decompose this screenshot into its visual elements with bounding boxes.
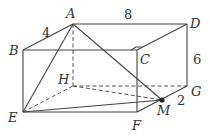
dimension-AB: 4	[42, 25, 50, 40]
edge-CD	[137, 24, 187, 50]
label-B: B	[8, 43, 19, 58]
point-M	[159, 97, 164, 102]
dimension-MG: 2	[177, 93, 185, 108]
label-E: E	[7, 110, 18, 125]
label-M: M	[156, 103, 171, 118]
label-D: D	[189, 16, 201, 31]
diagram-canvas: A B C D E F G H M 4 8 6 2	[0, 0, 210, 136]
label-C: C	[140, 52, 150, 67]
label-F: F	[131, 118, 142, 133]
label-G: G	[191, 84, 201, 99]
prism-diagram: A B C D E F G H M 4 8 6 2	[0, 0, 210, 136]
dimension-AD: 8	[124, 7, 132, 22]
label-A: A	[65, 6, 75, 21]
label-H: H	[57, 72, 70, 87]
dimension-DG: 6	[193, 52, 201, 67]
